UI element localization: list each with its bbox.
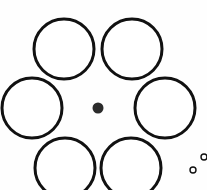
circle-top-right: [102, 19, 162, 79]
center-dot: [93, 103, 104, 114]
small-circle-lower: [190, 167, 196, 173]
ebbinghaus-illusion-svg: [0, 0, 207, 190]
circle-bottom-left: [35, 138, 95, 190]
circle-right: [135, 78, 195, 138]
center-dot-group: [93, 103, 104, 114]
circle-bottom-right: [101, 138, 161, 190]
small-circle-upper: [201, 154, 207, 160]
circle-top-left: [34, 19, 94, 79]
circle-left: [2, 78, 62, 138]
illusion-figure-canvas: [0, 0, 207, 190]
